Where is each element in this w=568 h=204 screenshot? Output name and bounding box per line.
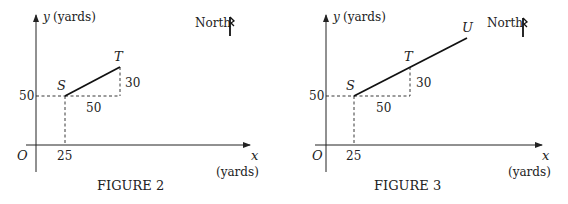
y-axis-var: y: [42, 10, 50, 24]
y-tick-50: 50: [19, 89, 34, 103]
point-u-label: U: [462, 20, 474, 35]
rise-label: 30: [416, 76, 431, 90]
segment-st: [65, 67, 120, 96]
y-axis-var: y: [332, 10, 340, 24]
point-s-label: S: [346, 78, 355, 93]
x-tick-25: 25: [57, 149, 72, 163]
origin-label: O: [312, 148, 323, 163]
x-axis-unit: (yards): [216, 165, 259, 179]
north-label: North: [487, 16, 523, 30]
figure-3: y (yards) S T U 30 50 50 25 O x (yards) …: [309, 10, 551, 193]
north-arrow-icon: [523, 18, 527, 37]
rise-label: 30: [125, 76, 140, 90]
run-label: 50: [376, 101, 391, 115]
origin-label: O: [17, 148, 28, 163]
y-axis-unit: (yards): [343, 10, 386, 24]
run-label: 50: [86, 101, 101, 115]
north-arrow-icon: [230, 17, 234, 36]
x-tick-25: 25: [346, 149, 361, 163]
diagram-canvas: y (yards) S T 30 50 50 25 O x (yards) No…: [0, 0, 568, 204]
figure-caption: FIGURE 3: [374, 178, 441, 193]
x-axis-var: x: [542, 148, 550, 163]
figure-2: y (yards) S T 30 50 50 25 O x (yards) No…: [17, 10, 259, 193]
y-axis-unit: (yards): [53, 10, 96, 24]
point-s-label: S: [57, 78, 66, 93]
north-label: North: [195, 16, 231, 30]
segment-su: [354, 38, 467, 96]
point-t-label: T: [404, 49, 414, 64]
x-axis-unit: (yards): [508, 165, 551, 179]
y-tick-50: 50: [309, 89, 324, 103]
figure-caption: FIGURE 2: [97, 178, 164, 193]
point-t-label: T: [114, 49, 124, 64]
x-axis-var: x: [251, 148, 259, 163]
